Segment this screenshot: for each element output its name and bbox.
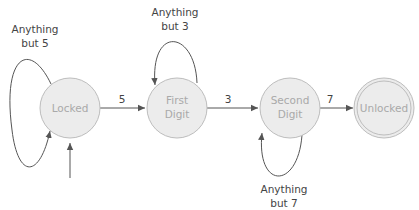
edge-label: 5: [119, 93, 126, 105]
state-label: Second: [271, 94, 310, 106]
edge-label: 7: [327, 93, 334, 105]
state-label: Unlocked: [360, 102, 408, 114]
edge-label: but 7: [270, 197, 297, 209]
state-first-digit: First Digit: [147, 78, 207, 138]
edge-label: 3: [225, 93, 232, 105]
state-locked: Locked: [40, 78, 100, 138]
edge-label: Anything: [11, 23, 58, 35]
state-label: First: [166, 94, 188, 106]
edge-label: but 3: [161, 20, 188, 32]
state-label: Digit: [278, 108, 303, 120]
state-label: Digit: [165, 108, 190, 120]
state-label: Locked: [52, 102, 89, 114]
state-unlocked: Unlocked: [354, 78, 414, 138]
edge-label: Anything: [260, 183, 307, 195]
state-diagram: Locked First Digit Second Digit Unlocked…: [0, 0, 419, 210]
state-second-digit: Second Digit: [260, 78, 320, 138]
edge-label: Anything: [151, 6, 198, 18]
edge-label: but 5: [21, 37, 48, 49]
self-loop-second: [261, 133, 302, 176]
